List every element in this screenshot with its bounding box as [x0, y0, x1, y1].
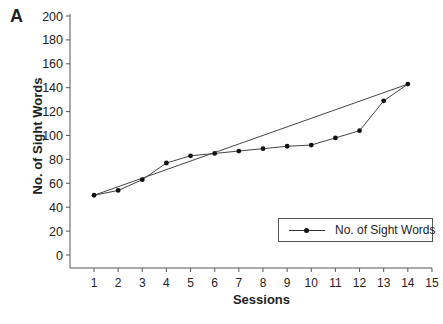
x-tick-label: 11: [329, 276, 342, 290]
x-tick-label: 5: [187, 276, 194, 290]
x-tick-label: 4: [163, 276, 170, 290]
legend-marker-icon: [304, 228, 309, 233]
y-tick-label: 20: [49, 225, 63, 239]
data-point: [309, 143, 314, 148]
data-point: [164, 161, 169, 166]
x-axis-label: Sessions: [0, 292, 443, 307]
line-chart: 0204060801001201401601802001234567891011…: [0, 0, 443, 324]
y-tick-label: 100: [42, 129, 63, 143]
data-point: [116, 188, 121, 193]
data-point: [333, 135, 338, 140]
data-point: [285, 144, 290, 149]
x-tick-label: 13: [377, 276, 391, 290]
data-point: [357, 128, 362, 133]
y-tick-label: 140: [42, 81, 63, 95]
legend: No. of Sight Words: [278, 218, 433, 242]
y-tick-label: 80: [49, 153, 63, 167]
x-tick-label: 3: [139, 276, 146, 290]
data-point: [188, 153, 193, 158]
y-tick-label: 40: [49, 201, 63, 215]
x-tick-label: 15: [425, 276, 439, 290]
x-tick-label: 12: [353, 276, 367, 290]
legend-entry-label: No. of Sight Words: [335, 223, 436, 237]
x-tick-label: 10: [305, 276, 319, 290]
y-tick-label: 180: [42, 33, 63, 47]
x-tick-label: 8: [260, 276, 267, 290]
data-point: [405, 82, 410, 87]
y-tick-label: 200: [42, 10, 63, 24]
y-axis-label: No. of Sight Words: [30, 78, 45, 195]
y-tick-label: 120: [42, 105, 63, 119]
x-tick-label: 6: [211, 276, 218, 290]
x-tick-label: 9: [284, 276, 291, 290]
y-tick-label: 160: [42, 57, 63, 71]
x-tick-label: 2: [115, 276, 122, 290]
data-point: [381, 98, 386, 103]
y-tick-label: 0: [56, 249, 63, 263]
data-point: [92, 193, 97, 198]
data-point: [261, 146, 266, 151]
x-tick-label: 1: [91, 276, 98, 290]
x-tick-label: 14: [401, 276, 415, 290]
y-tick-label: 60: [49, 177, 63, 191]
data-point: [236, 149, 241, 154]
data-point: [212, 151, 217, 156]
data-point: [140, 177, 145, 182]
x-tick-label: 7: [235, 276, 242, 290]
